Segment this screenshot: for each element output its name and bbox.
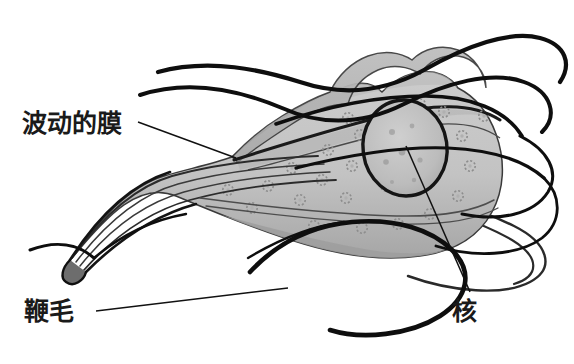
label-undulating-membrane: 波动的膜	[22, 109, 122, 137]
protozoan-diagram: 波动的膜 鞭毛 核	[0, 0, 574, 364]
label-nucleus: 核	[452, 297, 477, 325]
label-flagella: 鞭毛	[24, 298, 74, 325]
